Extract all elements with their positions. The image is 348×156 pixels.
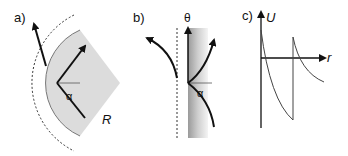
radius-label: R: [102, 112, 111, 127]
panel-c: c) U r: [242, 8, 332, 128]
angle-alpha-a: α: [66, 90, 73, 102]
panel-b: b) θ α: [133, 10, 214, 138]
potential-curve: [261, 30, 324, 120]
panel-c-label: c): [242, 8, 253, 23]
diagram-canvas: a) α R b) θ α c): [0, 0, 348, 156]
panel-b-label: b): [133, 10, 145, 25]
theta-label: θ: [184, 11, 191, 25]
panel-a-label: a): [14, 10, 26, 25]
angle-alpha-b: α: [197, 87, 204, 99]
escape-curve: [147, 38, 177, 78]
u-axis-label: U: [266, 10, 276, 25]
panel-a: a) α R: [14, 10, 120, 151]
r-axis-label: r: [327, 50, 332, 65]
